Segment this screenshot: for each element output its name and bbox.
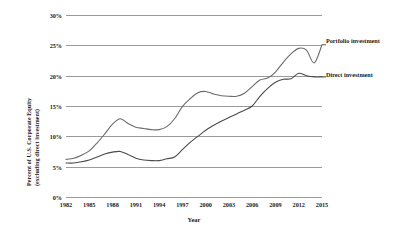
- x-tick-label: 1997: [176, 201, 188, 208]
- x-tick-label: 1994: [153, 201, 165, 208]
- x-tick-label: 1988: [106, 201, 118, 208]
- series-lines: [66, 15, 322, 197]
- plot-area: 0%5%10%15%20%25%30% 19821985198819911994…: [66, 15, 322, 197]
- x-tick-label: 2009: [269, 201, 281, 208]
- y-axis-title: Percent of U.S. Corporate Equity (exclud…: [0, 0, 40, 200]
- x-tick-label: 2012: [293, 201, 305, 208]
- y-axis-title-line2: (excluding direct investment): [34, 109, 40, 186]
- gridline: [66, 197, 322, 198]
- x-tick-label: 2000: [199, 201, 211, 208]
- x-axis-title: Year: [66, 216, 322, 223]
- x-tick-label: 2003: [223, 201, 235, 208]
- series-label-portfolio: Portfolio investment: [326, 37, 380, 44]
- y-tick-label: 10%: [50, 133, 62, 140]
- y-tick-label: 15%: [50, 103, 62, 110]
- x-tick-label: 1991: [130, 201, 142, 208]
- y-tick-label: 30%: [50, 12, 62, 19]
- series-line-portfolio: [66, 45, 322, 160]
- y-tick-label: 5%: [53, 163, 62, 170]
- y-tick-label: 25%: [50, 42, 62, 49]
- y-axis-title-line1: Percent of U.S. Corporate Equity: [26, 98, 32, 186]
- y-tick-label: 20%: [50, 72, 62, 79]
- x-tick-label: 1982: [60, 201, 72, 208]
- y-tick-label: 0%: [53, 194, 62, 201]
- x-tick-label: 2015: [316, 201, 328, 208]
- x-tick-label: 2006: [246, 201, 258, 208]
- chart-figure: Percent of U.S. Corporate Equity (exclud…: [0, 0, 404, 240]
- x-tick-label: 1985: [83, 201, 95, 208]
- series-label-direct: Direct investment: [326, 71, 373, 78]
- series-line-direct: [66, 73, 322, 163]
